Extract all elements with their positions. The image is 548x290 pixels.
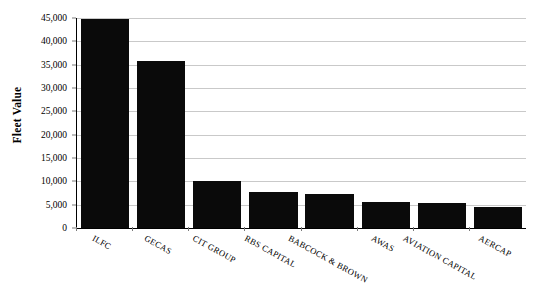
x-label-slot: GECAS	[132, 231, 188, 290]
bar[interactable]	[193, 181, 241, 228]
x-axis-tick-mark	[132, 227, 133, 231]
x-axis-tick-label: CIT GROUP	[191, 233, 238, 265]
x-label-slot: ILFC	[76, 231, 132, 290]
x-axis-tick-mark	[188, 227, 189, 231]
x-label-slot: BABCOCK & BROWN	[301, 231, 357, 290]
bar-slot	[77, 18, 133, 228]
bar-slot	[133, 18, 189, 228]
x-axis-tick-label: AWAS	[369, 233, 396, 254]
y-axis-title: Fleet Value	[0, 0, 34, 230]
x-axis-tick-mark	[357, 227, 358, 231]
bars-container	[77, 18, 526, 228]
bar-slot	[302, 18, 358, 228]
fleet-value-bar-chart: Fleet Value 45,00040,00035,00030,00025,0…	[0, 0, 548, 290]
x-axis-tick-labels: ILFCGECASCIT GROUPRBS CAPITALBABCOCK & B…	[76, 231, 525, 290]
y-axis-tick-label: 45,000	[41, 13, 67, 23]
x-axis-tick-label: AVIATION CAPITAL	[401, 233, 478, 282]
y-axis-tick-label: 40,000	[41, 36, 67, 46]
x-axis-tick-label: GECAS	[143, 233, 174, 256]
x-axis-tick-mark	[301, 227, 302, 231]
x-axis-tick-mark	[244, 227, 245, 231]
y-axis-tick-labels: 45,00040,00035,00030,00025,00020,00015,0…	[34, 18, 72, 228]
x-axis-tick-label: AERCAP	[477, 233, 513, 259]
x-label-slot: CIT GROUP	[188, 231, 244, 290]
x-label-slot: AERCAP	[469, 231, 525, 290]
bar-slot	[245, 18, 301, 228]
y-axis-tick-label: 35,000	[41, 60, 67, 70]
y-axis-tick-label: 15,000	[41, 153, 67, 163]
y-axis-tick-label: 5,000	[46, 200, 67, 210]
bar[interactable]	[305, 194, 353, 228]
y-axis-tick-label: 20,000	[41, 130, 67, 140]
bar[interactable]	[418, 203, 466, 228]
bar[interactable]	[249, 192, 297, 228]
x-axis-tick-mark	[76, 227, 77, 231]
x-axis-tick-label: ILFC	[91, 233, 113, 251]
x-label-slot: AVIATION CAPITAL	[413, 231, 469, 290]
y-axis-tick-label: 25,000	[41, 106, 67, 116]
y-axis-tick-label: 10,000	[41, 176, 67, 186]
bar[interactable]	[81, 19, 129, 228]
bar-slot	[414, 18, 470, 228]
bar[interactable]	[137, 61, 185, 228]
bar[interactable]	[474, 207, 522, 228]
bar[interactable]	[362, 202, 410, 228]
y-axis-tick-label: 30,000	[41, 83, 67, 93]
x-axis-tick-mark	[413, 227, 414, 231]
bar-slot	[189, 18, 245, 228]
bar-slot	[358, 18, 414, 228]
y-axis-title-text: Fleet Value	[11, 87, 23, 144]
bar-slot	[470, 18, 526, 228]
plot-area	[76, 18, 526, 229]
y-axis-tick-label: 0	[62, 223, 67, 233]
x-axis-tick-mark	[469, 227, 470, 231]
